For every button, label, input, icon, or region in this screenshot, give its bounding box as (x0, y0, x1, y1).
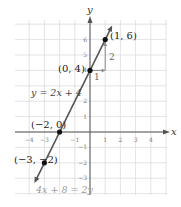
y-tick-label: 1 (83, 113, 87, 120)
x-tick-label: 2 (118, 136, 122, 143)
point-label-1-6: (1, 6) (110, 30, 137, 41)
y-axis-arrow-icon (88, 16, 93, 23)
y-tick-label: 6 (83, 36, 87, 43)
x-tick-label: −3 (40, 136, 49, 143)
y-tick-label: 5 (83, 51, 87, 58)
slope-triangle (90, 40, 107, 73)
axes (15, 16, 170, 195)
data-point (57, 129, 62, 134)
x-tick-label: 1 (103, 136, 107, 143)
x-axis-label: x (171, 126, 177, 137)
x-axis-arrow-icon (163, 130, 170, 135)
equation-label-standard: 4x + 8 = 2y (35, 184, 93, 195)
run-label: 1 (94, 72, 100, 82)
x-tick-label: 4 (149, 136, 153, 143)
point-label-neg2-0: (−2, 0) (31, 119, 66, 130)
y-axis-label: y (86, 4, 93, 15)
x-tick-label: −4 (25, 136, 34, 143)
y-tick-label: −3 (78, 174, 87, 181)
run-arrow-icon (102, 68, 106, 72)
equation-label-slope-intercept: y = 2x + 4 (30, 87, 82, 98)
rise-label: 2 (109, 52, 115, 62)
data-point (103, 37, 108, 42)
y-tick-label: −2 (78, 159, 87, 166)
x-tick-label: 3 (134, 136, 138, 143)
data-point (87, 68, 92, 73)
y-tick-label: −1 (78, 143, 87, 150)
point-label-neg3-neg2: (−3, −2) (14, 154, 58, 165)
x-tick-label: −1 (70, 136, 79, 143)
chart: −4−3−11234−3−2−112456 y x (1, 6) (0, 4) … (0, 0, 181, 207)
y-tick-label: 2 (83, 97, 87, 104)
point-label-0-4: (0, 4) (58, 63, 85, 74)
grid (15, 20, 167, 195)
